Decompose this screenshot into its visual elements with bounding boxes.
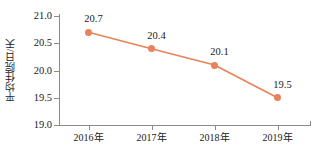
series-line xyxy=(0,0,328,156)
line-chart: 平均住院日/天 21.020.520.019.519.0 2016年2017年2… xyxy=(0,0,328,156)
series-polyline xyxy=(89,32,278,97)
